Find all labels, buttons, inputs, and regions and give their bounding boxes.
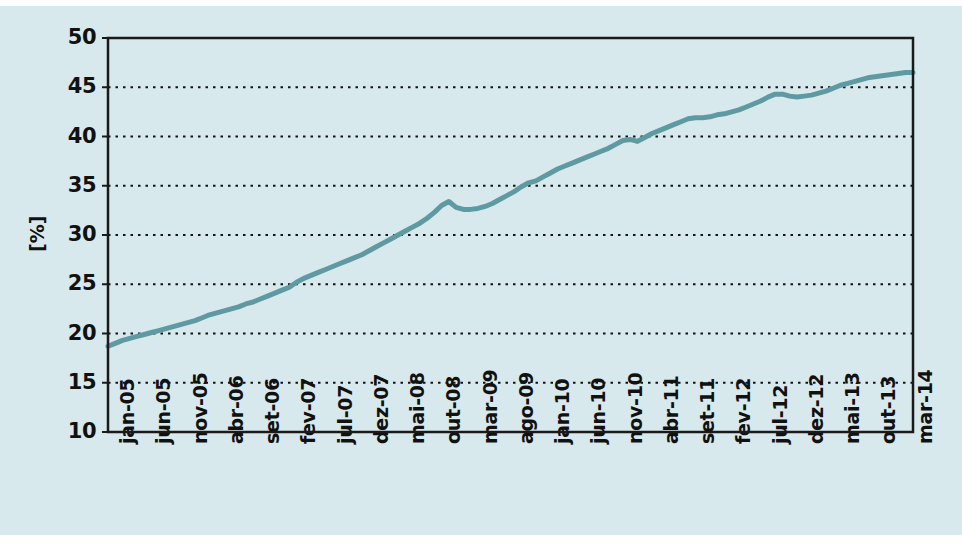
chart-figure: [%] 101520253035404550 jan-05jun-05nov-0… [0, 0, 962, 547]
chart-plot-area [0, 0, 962, 547]
series-lines [108, 72, 913, 346]
series-line-0 [108, 72, 913, 346]
